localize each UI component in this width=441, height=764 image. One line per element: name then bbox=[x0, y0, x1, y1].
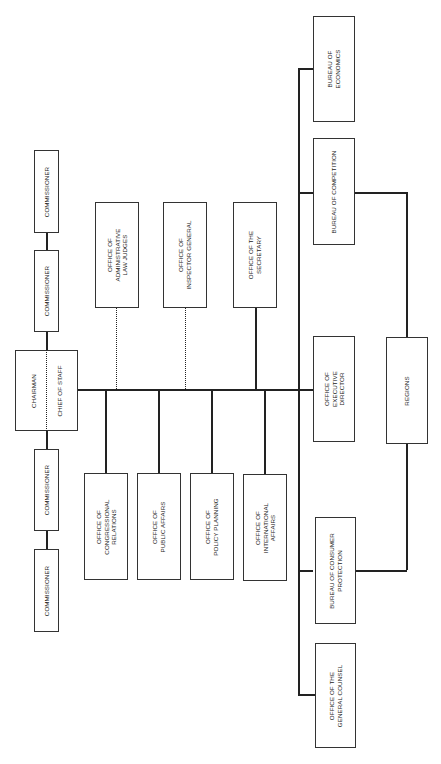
bureau-economics-label: BUREAU OF ECONOMICS bbox=[326, 49, 341, 88]
bureau-economics-box: BUREAU OF ECONOMICS bbox=[313, 16, 355, 122]
commissioner-box-bottom: COMMISSIONER bbox=[34, 549, 59, 632]
congressional-relations-label: OFFICE OF CONGRESSIONAL RELATIONS bbox=[95, 499, 118, 554]
regions-bottom-connector bbox=[406, 444, 408, 570]
connector-line bbox=[46, 332, 48, 350]
commissioner-box-upper: COMMISSIONER bbox=[34, 250, 59, 332]
connector-line bbox=[46, 531, 48, 549]
inspector-general-dotted-line bbox=[185, 308, 186, 389]
commissioner-label: COMMISSIONER bbox=[43, 465, 51, 515]
congressional-relations-box: OFFICE OF CONGRESSIONAL RELATIONS bbox=[84, 473, 128, 580]
bureau-competition-connector bbox=[298, 192, 313, 194]
org-chart: COMMISSIONER COMMISSIONER COMMISSIONER C… bbox=[0, 0, 441, 764]
secretary-label: OFFICE OF THE SECRETARY bbox=[247, 231, 262, 279]
commissioner-label: COMMISSIONER bbox=[43, 166, 51, 216]
secretary-connector-line bbox=[255, 308, 257, 389]
commissioner-box-top: COMMISSIONER bbox=[34, 150, 59, 233]
public-affairs-box: OFFICE OF PUBLIC AFFAIRS bbox=[137, 473, 181, 580]
admin-law-judges-box: OFFICE OF ADMINISTRATIVE LAW JUDGES bbox=[95, 202, 139, 308]
executive-director-label: OFFICE OF EXECUTIVE DIRECTOR bbox=[323, 371, 346, 407]
bureau-competition-label: BUREAU OF COMPETITION bbox=[330, 150, 338, 233]
general-counsel-label: OFFICE OF THE GENERAL COUNSEL bbox=[328, 664, 343, 726]
regions-top-connector bbox=[406, 192, 408, 337]
commissioner-label: COMMISSIONER bbox=[43, 266, 51, 316]
admin-law-judges-dotted-line bbox=[116, 308, 117, 389]
competition-regions-h-line bbox=[355, 192, 407, 194]
secretary-box: OFFICE OF THE SECRETARY bbox=[233, 202, 277, 308]
chairman-divider-dotted bbox=[46, 350, 47, 431]
connector-line bbox=[46, 233, 48, 250]
congressional-relations-connector bbox=[105, 389, 107, 473]
international-affairs-box: OFFICE OF INTERNATIONAL AFFAIRS bbox=[243, 474, 287, 581]
bureau-competition-box: BUREAU OF COMPETITION bbox=[313, 138, 355, 245]
inspector-general-label: OFFICE OF INSPECTOR GENERAL bbox=[177, 221, 192, 290]
bureau-economics-connector bbox=[298, 68, 313, 70]
international-affairs-connector bbox=[264, 389, 266, 474]
bureau-consumer-protection-label: BUREAU OF CONSUMER PROTECTION bbox=[328, 533, 343, 609]
policy-planning-label: OFFICE OF POLICY PLANNING bbox=[204, 498, 219, 555]
commissioner-box-lower: COMMISSIONER bbox=[34, 449, 59, 531]
general-counsel-box: OFFICE OF THE GENERAL COUNSEL bbox=[315, 643, 356, 748]
connector-line bbox=[46, 431, 48, 449]
policy-planning-box: OFFICE OF POLICY PLANNING bbox=[190, 473, 234, 580]
consumer-regions-h-line bbox=[355, 570, 407, 572]
chief-of-staff-label: CHIEF OF STAFF bbox=[56, 365, 64, 416]
international-affairs-label: OFFICE OF INTERNATIONAL AFFAIRS bbox=[254, 502, 277, 552]
bureau-consumer-protection-box: BUREAU OF CONSUMER PROTECTION bbox=[315, 517, 356, 624]
commissioner-label: COMMISSIONER bbox=[43, 565, 51, 615]
regions-box: REGIONS bbox=[386, 337, 428, 444]
main-spine-line bbox=[78, 389, 300, 391]
regions-label: REGIONS bbox=[403, 376, 411, 405]
bureau-consumer-connector bbox=[298, 570, 313, 572]
bureau-spine-line bbox=[298, 68, 300, 695]
admin-law-judges-label: OFFICE OF ADMINISTRATIVE LAW JUDGES bbox=[106, 229, 129, 282]
general-counsel-connector bbox=[298, 694, 315, 696]
inspector-general-box: OFFICE OF INSPECTOR GENERAL bbox=[163, 202, 207, 308]
executive-director-box: OFFICE OF EXECUTIVE DIRECTOR bbox=[313, 336, 355, 442]
public-affairs-label: OFFICE OF PUBLIC AFFAIRS bbox=[151, 501, 166, 552]
policy-planning-connector bbox=[211, 389, 213, 473]
executive-director-connector bbox=[300, 389, 314, 391]
chairman-label: CHAIRMAN bbox=[31, 374, 39, 408]
public-affairs-connector bbox=[158, 389, 160, 473]
